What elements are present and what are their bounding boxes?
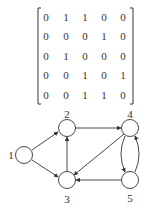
matrix-cell: 0 [116, 11, 130, 23]
matrix-cell: 1 [97, 30, 111, 42]
matrix-cell: 1 [97, 89, 111, 101]
matrix-cell: 0 [116, 89, 130, 101]
node-label-5: 5 [127, 192, 133, 204]
matrix-cell: 0 [97, 50, 111, 62]
matrix-cell: 0 [78, 50, 92, 62]
node-label-1: 1 [8, 149, 14, 161]
node-1 [16, 147, 33, 164]
matrix-cell: 0 [39, 11, 53, 23]
edge-4-5 [121, 136, 125, 172]
matrix-cell: 1 [78, 89, 92, 101]
matrix-cell: 0 [116, 50, 130, 62]
matrix-cell: 0 [39, 69, 53, 81]
node-label-2: 2 [64, 108, 70, 120]
matrix-cell: 0 [59, 30, 73, 42]
edge-5-4 [135, 136, 139, 172]
matrix-cell: 1 [78, 69, 92, 81]
matrix-cell: 1 [78, 11, 92, 23]
adjacency-matrix: 0 1 1 0 0 0 0 0 1 0 0 1 0 0 0 0 0 1 0 1 … [37, 7, 134, 105]
node-2 [59, 120, 76, 137]
matrix-cell: 0 [97, 69, 111, 81]
matrix-cell: 1 [59, 50, 73, 62]
matrix-cell: 0 [59, 89, 73, 101]
node-5 [122, 172, 139, 189]
edge-1-2 [32, 132, 58, 150]
matrix-cell: 0 [39, 50, 53, 62]
matrix-cell: 0 [78, 30, 92, 42]
directed-graph: 1 2 3 4 5 [0, 105, 146, 218]
matrix-cell: 0 [39, 30, 53, 42]
node-label-4: 4 [127, 108, 133, 120]
node-4 [122, 120, 139, 137]
matrix-cell: 0 [39, 89, 53, 101]
matrix-cell: 0 [59, 69, 73, 81]
matrix-cell: 0 [97, 11, 111, 23]
matrix-cell: 1 [59, 11, 73, 23]
node-3 [59, 172, 76, 189]
matrix-cell: 1 [116, 69, 130, 81]
node-label-3: 3 [64, 193, 70, 205]
matrix-cell: 0 [116, 30, 130, 42]
edge-1-3 [32, 160, 58, 177]
edge-4-3 [74, 134, 124, 175]
